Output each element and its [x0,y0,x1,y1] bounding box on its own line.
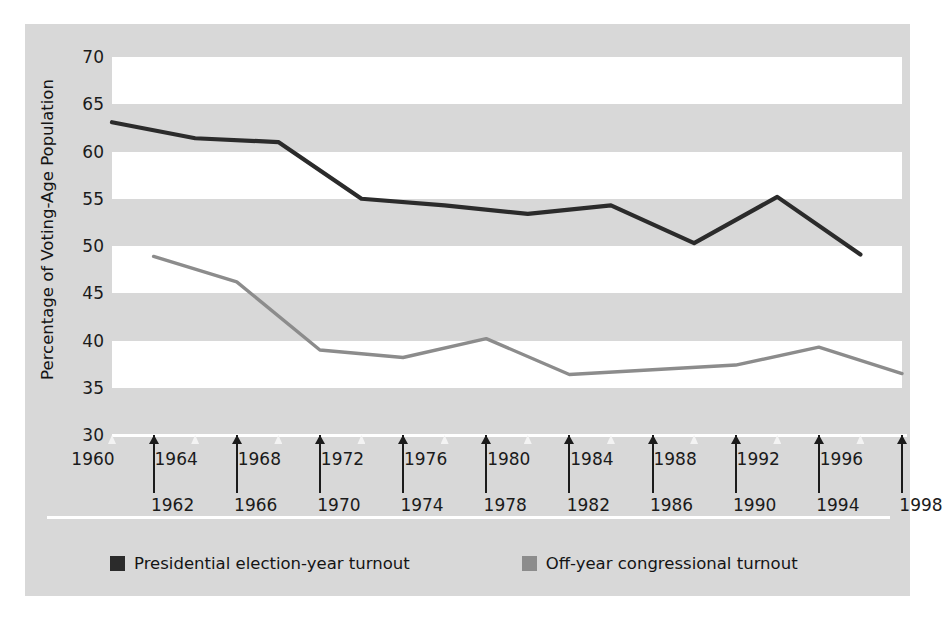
y-tick-label: 30 [68,427,104,444]
x-tick-short [274,435,282,444]
y-tick-label: 55 [68,190,104,207]
x-tick-label: 1986 [650,497,693,514]
y-tick-label: 60 [68,143,104,160]
legend-label-offyear: Off-year congressional turnout [546,554,798,573]
series-lines [112,57,902,435]
legend-swatch-offyear [522,556,537,571]
x-tick-label: 1968 [238,451,281,468]
legend-item-offyear: Off-year congressional turnout [522,554,798,573]
x-tick-label: 1998 [899,497,942,514]
x-tick-label: 1964 [155,451,198,468]
x-tick-short [524,435,532,444]
line-offyear [154,256,902,374]
x-tick-short [773,435,781,444]
x-tick-label: 1996 [820,451,863,468]
line-presidential [112,122,860,254]
y-axis-tick-labels: 706560555045403530 [60,57,104,435]
x-tick-long [901,435,903,493]
x-tick-label: 1988 [653,451,696,468]
x-tick-label: 1960 [71,451,114,468]
x-tick-label: 1990 [733,497,776,514]
x-tick-short [690,435,698,444]
x-tick-label: 1974 [400,497,443,514]
x-tick-label: 1992 [737,451,780,468]
x-tick-label: 1976 [404,451,447,468]
x-tick-label: 1966 [234,497,277,514]
x-tick-short [441,435,449,444]
x-tick-label: 1978 [484,497,527,514]
x-tick-label: 1962 [151,497,194,514]
x-tick-label: 1970 [317,497,360,514]
x-tick-short [607,435,615,444]
y-axis-label: Percentage of Voting-Age Population [38,60,57,400]
chart-legend: Presidential election-year turnout Off-y… [110,552,798,574]
x-tick-label: 1994 [816,497,859,514]
legend-divider [47,516,890,519]
legend-item-presidential: Presidential election-year turnout [110,554,410,573]
x-tick-short [191,435,199,444]
x-tick-label: 1972 [321,451,364,468]
x-tick-label: 1984 [570,451,613,468]
chart-figure: Percentage of Voting-Age Population 7065… [25,24,910,596]
x-tick-label: 1980 [487,451,530,468]
y-tick-label: 40 [68,332,104,349]
x-tick-short [108,435,116,444]
x-tick-short [856,435,864,444]
y-tick-label: 35 [68,379,104,396]
x-tick-label: 1982 [567,497,610,514]
y-tick-label: 65 [68,96,104,113]
plot-area [112,57,902,435]
y-tick-label: 50 [68,238,104,255]
legend-label-presidential: Presidential election-year turnout [134,554,410,573]
x-tick-short [357,435,365,444]
y-tick-label: 45 [68,285,104,302]
y-tick-label: 70 [68,49,104,66]
legend-swatch-presidential [110,556,125,571]
